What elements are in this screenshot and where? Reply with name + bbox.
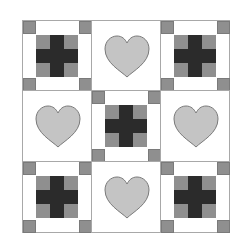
nine-patch-corner [64,204,78,218]
nine-patch-corner [174,204,188,218]
block-cross [22,161,92,233]
block-cross [91,90,161,162]
quilt [22,20,230,233]
nine-patch-corner [202,35,216,49]
heart-icon [172,105,220,149]
nine-patch-corner [105,133,119,147]
cross-nine-patch [36,35,78,77]
cross-cell [105,119,119,133]
cross-cell [119,105,133,119]
corner-square [92,91,105,104]
corner-square [23,162,36,175]
nine-patch-corner [64,176,78,190]
nine-patch-corner [174,176,188,190]
corner-square [217,21,230,34]
cross-cell [188,49,202,63]
nine-patch-corner [174,35,188,49]
nine-patch-corner [36,204,50,218]
heart-icon [103,35,151,79]
nine-patch-corner [133,133,147,147]
nine-patch-corner [202,176,216,190]
nine-patch-corner [105,105,119,119]
cross-nine-patch [174,176,216,218]
cross-cell [64,190,78,204]
block-heart [160,90,230,162]
corner-square [217,220,230,233]
nine-patch-corner [36,176,50,190]
cross-cell [50,35,64,49]
cross-cell [133,119,147,133]
cross-cell [174,190,188,204]
cross-cell [174,49,188,63]
nine-patch-corner [202,204,216,218]
nine-patch-corner [174,63,188,77]
block-cross [22,20,92,91]
nine-patch-corner [64,63,78,77]
cross-cell [64,49,78,63]
cross-cell [119,119,133,133]
cross-cell [188,35,202,49]
corner-square [161,21,174,34]
corner-square [161,162,174,175]
corner-square [23,220,36,233]
block-heart [91,20,161,91]
heart-icon [34,105,82,149]
cross-cell [50,49,64,63]
nine-patch-corner [133,105,147,119]
block-heart [91,161,161,233]
cross-cell [202,49,216,63]
block-heart [22,90,92,162]
cross-cell [36,49,50,63]
cross-cell [188,190,202,204]
cross-nine-patch [174,35,216,77]
cross-nine-patch [105,105,147,147]
nine-patch-corner [202,63,216,77]
nine-patch-corner [64,35,78,49]
cross-cell [188,63,202,77]
cross-cell [188,176,202,190]
cross-cell [188,204,202,218]
cross-cell [36,190,50,204]
nine-patch-corner [36,63,50,77]
cross-cell [50,204,64,218]
corner-square [217,162,230,175]
block-cross [160,20,230,91]
cross-cell [119,133,133,147]
cross-nine-patch [36,176,78,218]
corner-square [23,21,36,34]
cross-cell [50,190,64,204]
cross-cell [50,176,64,190]
nine-patch-corner [36,35,50,49]
heart-icon [103,176,151,220]
cross-cell [50,63,64,77]
corner-square [161,220,174,233]
block-cross [160,161,230,233]
cross-cell [202,190,216,204]
